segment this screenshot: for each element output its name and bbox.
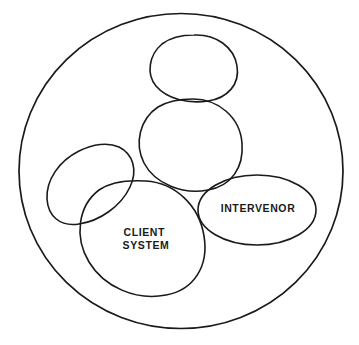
top-system-blob xyxy=(150,35,237,102)
client-system-label-line2: SYSTEM xyxy=(123,239,170,251)
systems-diagram: CLIENT SYSTEM INTERVENOR xyxy=(0,0,359,345)
diagram-canvas: CLIENT SYSTEM INTERVENOR xyxy=(0,0,359,345)
intervenor-label-line1: INTERVENOR xyxy=(221,202,296,214)
intervenor-label: INTERVENOR xyxy=(221,202,296,214)
middle-system-blob xyxy=(139,99,242,191)
client-system-label: CLIENT SYSTEM xyxy=(123,226,170,251)
client-system-label-line1: CLIENT xyxy=(123,226,165,238)
